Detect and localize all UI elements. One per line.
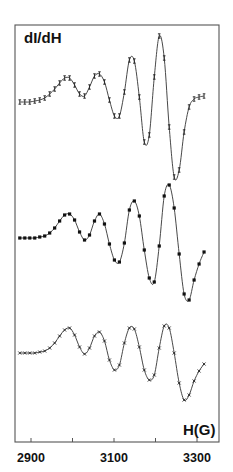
dot-marker	[133, 199, 136, 202]
dot-marker	[192, 278, 195, 281]
plot-frame	[15, 25, 219, 442]
tick-marker	[138, 95, 141, 99]
dot-marker	[173, 206, 176, 209]
dot-marker	[73, 218, 76, 221]
cross-marker	[53, 342, 56, 345]
dot-marker	[98, 212, 101, 215]
dot-marker	[183, 292, 186, 295]
dot-marker	[143, 248, 146, 251]
series-bottom-spectrum	[18, 324, 205, 402]
cross-marker	[48, 347, 51, 350]
dot-marker	[178, 252, 181, 255]
tick-marker	[163, 56, 166, 60]
tick-marker	[178, 168, 181, 172]
cross-marker	[183, 399, 186, 402]
dot-marker	[118, 260, 121, 263]
dot-marker	[163, 194, 166, 197]
dot-marker	[197, 262, 200, 265]
dot-marker	[43, 234, 46, 237]
spectrum-line	[20, 184, 204, 301]
dot-marker	[103, 222, 106, 225]
dot-marker	[168, 183, 171, 186]
tick-marker	[153, 75, 156, 79]
tick-label-3100: 3100	[100, 451, 128, 465]
dot-marker	[148, 276, 151, 279]
dot-marker	[63, 213, 66, 216]
dot-marker	[88, 233, 91, 236]
tick-marker	[183, 130, 186, 134]
tick-label-2900: 2900	[17, 451, 45, 465]
dot-marker	[78, 230, 81, 233]
dot-marker	[153, 280, 156, 283]
x-axis-unit-label: H(G)	[183, 421, 216, 438]
dot-marker	[158, 244, 161, 247]
dot-marker	[68, 212, 71, 215]
epr-spectra-chart: dI/dH H(G) 2900 3100 3300	[0, 0, 233, 472]
dot-marker	[108, 242, 111, 245]
tick-marker	[168, 125, 171, 129]
cross-marker	[128, 327, 131, 330]
x-axis-ticks	[31, 438, 197, 442]
spectrum-line	[20, 324, 204, 401]
tick-marker	[123, 90, 126, 94]
cross-marker	[58, 335, 61, 338]
cross-marker	[88, 347, 91, 350]
dot-marker	[23, 236, 26, 239]
dot-marker	[18, 236, 21, 239]
cross-marker	[63, 329, 66, 332]
tick-marker	[173, 175, 176, 179]
dot-marker	[138, 214, 141, 217]
dot-marker	[53, 226, 56, 229]
dot-marker	[48, 231, 51, 234]
tick-marker	[148, 133, 151, 137]
tick-marker	[48, 92, 51, 96]
y-axis-label: dI/dH	[24, 29, 62, 46]
series-middle-spectrum	[18, 183, 205, 301]
series-top-spectrum	[18, 34, 205, 180]
cross-marker	[203, 363, 206, 366]
dot-marker	[123, 241, 126, 244]
cross-marker	[73, 334, 76, 337]
dot-marker	[93, 219, 96, 222]
cross-marker	[93, 335, 96, 338]
dot-marker	[28, 236, 31, 239]
dot-marker	[58, 219, 61, 222]
dot-marker	[188, 298, 191, 301]
tick-marker	[193, 97, 196, 101]
dot-marker	[83, 238, 86, 241]
tick-label-3300: 3300	[183, 451, 211, 465]
dot-marker	[33, 236, 36, 239]
dot-marker	[113, 258, 116, 261]
cross-marker	[198, 370, 201, 373]
spectrum-line	[20, 35, 204, 180]
dot-marker	[38, 235, 41, 238]
dot-marker	[128, 208, 131, 211]
dot-marker	[202, 250, 205, 253]
